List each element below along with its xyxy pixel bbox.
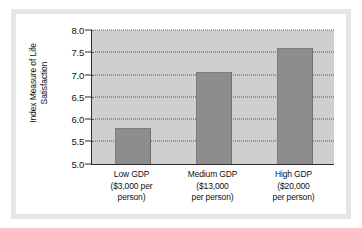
y-axis-title: Index Measure of Life Satisfaction (28, 23, 50, 143)
x-axis-label-2-line-0: High GDP (253, 169, 334, 181)
y-axis-title-line-1: Index Measure of Life (28, 23, 39, 143)
x-axis-label-2: High GDP($20,000per person) (253, 169, 334, 204)
x-axis-label-1-line-1: ($13,000 (172, 181, 253, 193)
y-tick-label-8.0: 8.0 (60, 25, 84, 36)
y-tick-label-7.0: 7.0 (60, 69, 84, 80)
x-axis-label-0: Low GDP($3,000 perperson) (91, 169, 172, 204)
bar-1 (196, 72, 232, 163)
x-axis-label-0-line-1: ($3,000 per (91, 181, 172, 193)
y-tick-label-5.5: 5.5 (60, 136, 84, 147)
x-axis-label-2-line-1: ($20,000 (253, 181, 334, 193)
y-tick-label-7.5: 7.5 (60, 47, 84, 58)
y-tick-label-6.5: 6.5 (60, 91, 84, 102)
y-tick-label-6.0: 6.0 (60, 114, 84, 125)
figure-frame: Index Measure of Life Satisfaction 5.05.… (11, 9, 351, 219)
bar-2 (277, 48, 313, 164)
y-axis-tick-labels: 5.05.56.06.57.07.58.0 (60, 30, 84, 165)
x-axis-label-1-line-2: per person) (172, 192, 253, 204)
y-axis-line (91, 30, 92, 165)
x-axis-label-0-line-0: Low GDP (91, 169, 172, 181)
plot-area (91, 30, 334, 165)
x-axis-line (91, 164, 334, 166)
y-tick-label-5.0: 5.0 (60, 158, 84, 169)
x-axis-label-0-line-2: person) (91, 192, 172, 204)
gridline-8.0 (92, 30, 334, 31)
x-axis-label-2-line-2: per person) (253, 192, 334, 204)
bar-0 (115, 128, 151, 164)
bar-chart: Index Measure of Life Satisfaction 5.05.… (16, 14, 346, 214)
y-axis-title-line-2: Satisfaction (39, 23, 50, 143)
x-axis-label-1-line-0: Medium GDP (172, 169, 253, 181)
x-axis-label-1: Medium GDP($13,000per person) (172, 169, 253, 204)
x-axis-category-labels: Low GDP($3,000 perperson)Medium GDP($13,… (91, 169, 334, 214)
